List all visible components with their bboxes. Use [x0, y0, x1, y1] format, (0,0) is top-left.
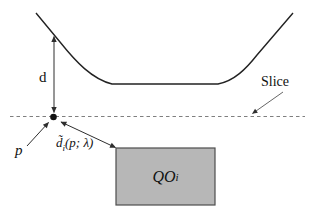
- point-dot: [50, 114, 57, 121]
- query-object-base: QO: [152, 169, 175, 185]
- approx-distance-args: (p; λ): [65, 135, 93, 150]
- query-object-label: QOi: [116, 148, 215, 205]
- slice-distance-diagram: d Slice p d̃i(p; λ) QOi: [0, 0, 316, 219]
- slice-label: Slice: [261, 75, 289, 89]
- slice-pointer-arrow: [253, 92, 284, 114]
- p-pointer-arrow: [27, 123, 49, 147]
- p-label: p: [15, 143, 23, 158]
- d-label: d: [39, 70, 47, 85]
- approx-distance-label: d̃i(p; λ): [56, 136, 93, 149]
- distance-curve: [36, 13, 293, 84]
